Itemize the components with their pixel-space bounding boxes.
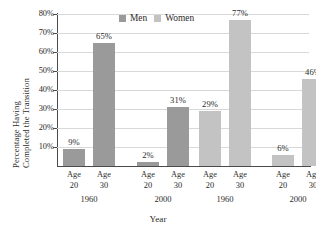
legend-label-women: Women: [165, 13, 194, 23]
bar-value-label: 46%: [295, 68, 316, 77]
bar: [229, 20, 251, 166]
legend-item-men: Men: [119, 13, 147, 23]
bar-value-label: 29%: [192, 100, 228, 109]
x-group-label: 1960: [69, 194, 109, 204]
legend-item-women: Women: [154, 13, 194, 23]
x-tick-age-word: Age: [223, 170, 257, 181]
x-tick-age-word: Age: [193, 170, 227, 181]
bar-value-label: 77%: [222, 9, 258, 18]
y-tick-label: 60%: [28, 48, 54, 56]
y-tick-label: 50%: [28, 67, 54, 75]
bar: [199, 111, 221, 166]
y-tick-label: 80%: [28, 10, 54, 18]
x-tick-label: Age20: [193, 170, 227, 191]
x-axis-labels: Age20Age30Age20Age30Age20Age30Age20Age30…: [57, 168, 311, 213]
x-tick-age-word: Age: [57, 170, 91, 181]
x-tick-age-word: Age: [296, 170, 316, 181]
x-tick-age-number: 20: [57, 181, 91, 192]
x-tick-label: Age30: [161, 170, 195, 191]
bar-value-label: 9%: [56, 138, 92, 147]
x-tick-age-number: 30: [223, 181, 257, 192]
x-axis-title: Year: [0, 214, 316, 224]
y-tick-label: 20%: [28, 124, 54, 132]
y-tick-label: 30%: [28, 105, 54, 113]
x-tick-label: Age20: [266, 170, 300, 191]
bar-value-label: 31%: [160, 96, 196, 105]
bar: [137, 162, 159, 166]
x-tick-label: Age20: [131, 170, 165, 191]
y-tick-label: 70%: [28, 29, 54, 37]
x-tick-label: Age30: [87, 170, 121, 191]
x-tick-age-number: 30: [161, 181, 195, 192]
x-tick-age-word: Age: [161, 170, 195, 181]
x-tick-age-word: Age: [266, 170, 300, 181]
bar-chart: Percentage Having Completed the Transiti…: [0, 0, 316, 233]
bar: [167, 107, 189, 166]
x-tick-age-number: 20: [131, 181, 165, 192]
legend-swatch-men-icon: [119, 15, 126, 22]
y-tick-label: 40%: [28, 86, 54, 94]
bar-value-label: 6%: [265, 144, 301, 153]
bar-value-label: 65%: [86, 32, 122, 41]
x-tick-age-number: 30: [296, 181, 316, 192]
x-tick-label: Age30: [296, 170, 316, 191]
y-axis-ticks: 80%70%60%50%40%30%20%10%: [26, 14, 54, 166]
x-group-label: 1960: [205, 194, 245, 204]
x-tick-age-word: Age: [87, 170, 121, 181]
y-axis-title-line-1: Percentage Having: [11, 101, 21, 168]
bar: [302, 79, 316, 166]
x-tick-age-word: Age: [131, 170, 165, 181]
bar-value-label: 2%: [130, 151, 166, 160]
x-group-label: 2000: [278, 194, 316, 204]
legend-swatch-women-icon: [154, 15, 161, 22]
x-tick-label: Age30: [223, 170, 257, 191]
y-tick-label: 10%: [28, 143, 54, 151]
bar: [63, 149, 85, 166]
x-group-label: 2000: [143, 194, 183, 204]
bar: [93, 43, 115, 167]
legend-label-men: Men: [130, 13, 147, 23]
x-tick-age-number: 30: [87, 181, 121, 192]
x-tick-age-number: 20: [266, 181, 300, 192]
bar: [272, 155, 294, 166]
x-axis-line: [57, 166, 311, 167]
chart-legend: Men Women: [119, 13, 194, 23]
plot-area: 9%65%2%31%29%77%6%46%: [57, 14, 309, 166]
x-tick-age-number: 20: [193, 181, 227, 192]
x-tick-label: Age20: [57, 170, 91, 191]
